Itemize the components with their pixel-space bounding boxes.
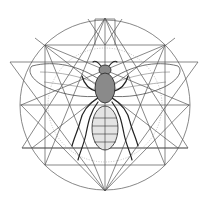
star-line xyxy=(45,45,189,105)
star-line xyxy=(21,45,165,105)
bee-geometry-illustration xyxy=(0,0,210,208)
sacred-geometry-lines xyxy=(10,18,198,191)
bee-thorax xyxy=(95,73,115,103)
